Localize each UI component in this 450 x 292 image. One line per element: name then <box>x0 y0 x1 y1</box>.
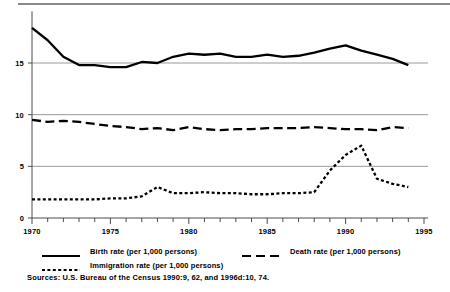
solid-line-key <box>40 247 82 257</box>
legend-label-birth-rate: Birth rate (per 1,000 persons) <box>90 247 197 256</box>
chart-legend: Birth rate (per 1,000 persons) Death rat… <box>40 246 450 272</box>
legend-item-birth-rate: Birth rate (per 1,000 persons) <box>40 246 197 257</box>
series-group <box>32 28 408 200</box>
x-tick-label-1980: 1980 <box>174 227 204 236</box>
x-tick-label-1990: 1990 <box>331 227 361 236</box>
y-tick-label-10: 10 <box>4 111 24 120</box>
x-tick-label-1985: 1985 <box>252 227 282 236</box>
series-line-1 <box>32 120 408 130</box>
series-line-2 <box>32 146 408 200</box>
y-tick-label-5: 5 <box>4 162 24 171</box>
dotted-line-key <box>40 261 82 271</box>
legend-item-immigration-rate: Immigration rate (per 1,000 persons) <box>40 260 223 271</box>
gridline-group <box>32 63 428 166</box>
y-tick-label-15: 15 <box>4 59 24 68</box>
legend-label-immigration-rate: Immigration rate (per 1,000 persons) <box>90 261 223 270</box>
figure-container: 051015 197019751980198519901995 Birth ra… <box>0 0 450 292</box>
legend-label-death-rate: Death rate (per 1,000 persons) <box>290 247 401 256</box>
x-tick-label-1970: 1970 <box>17 227 47 236</box>
series-line-0 <box>32 28 408 67</box>
x-tick-label-1975: 1975 <box>95 227 125 236</box>
y-tick-label-0: 0 <box>4 214 24 223</box>
sources-note: Sources: U.S. Bureau of the Census 1990:… <box>27 273 269 282</box>
dashed-line-key <box>240 247 282 257</box>
legend-item-death-rate: Death rate (per 1,000 persons) <box>240 246 401 257</box>
x-tick-label-1995: 1995 <box>409 227 439 236</box>
